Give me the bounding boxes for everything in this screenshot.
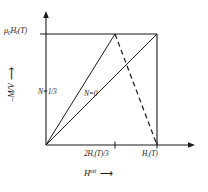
curve-label-n-zero: N=0 xyxy=(84,90,97,98)
curve-n-one-third-falling-dashed xyxy=(115,34,157,145)
curve-n-zero-rising xyxy=(46,34,157,145)
x-axis-title-superscript: ext xyxy=(90,168,96,174)
curve-label-n-one-third-text: N=1/3 xyxy=(38,87,57,96)
x-axis-title: Hext ⟶ xyxy=(84,169,113,178)
x-tick-label-hc-text: Hₑ(T) xyxy=(142,149,158,158)
x-tick-label-2hc-over-3: 2Hₑ(T)/3 xyxy=(84,150,109,158)
y-axis-title-arrow-icon: ⟶ xyxy=(6,67,16,82)
y-axis-top-tick-label: μ₀Hₑ(T) xyxy=(4,27,27,35)
y-axis xyxy=(43,11,49,145)
y-axis-title: –M/V ⟶ xyxy=(7,62,16,106)
figure-canvas xyxy=(0,0,208,192)
curve-label-n-one-third: N=1/3 xyxy=(38,88,57,96)
y-axis-title-text: –M/V xyxy=(6,84,16,102)
x-tick-label-2hc-over-3-text: 2Hₑ(T)/3 xyxy=(84,149,109,158)
x-tick-label-hc: Hₑ(T) xyxy=(142,150,158,158)
x-axis-arrowhead xyxy=(188,142,195,148)
x-axis-title-arrow-icon: ⟶ xyxy=(98,168,113,178)
y-axis-top-tick-text: μ₀Hₑ(T) xyxy=(4,26,27,35)
x-axis xyxy=(46,142,195,148)
y-axis-arrowhead xyxy=(43,11,49,18)
curve-label-n-zero-text: N=0 xyxy=(84,89,97,98)
